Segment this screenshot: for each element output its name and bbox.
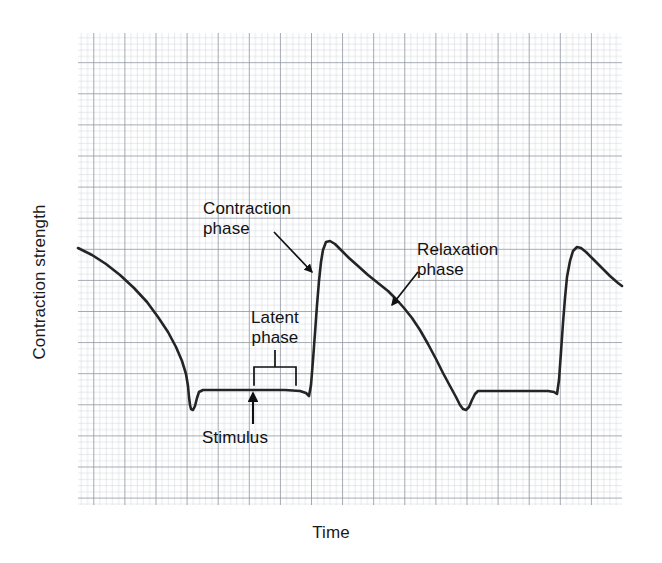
- annotation-latent-phase: Latent phase: [238, 308, 312, 348]
- y-axis-label: Contraction strength: [30, 172, 50, 392]
- annotation-contraction-phase: Contraction phase: [203, 199, 291, 239]
- annotation-stimulus: Stimulus: [202, 428, 268, 448]
- grid-area: [78, 33, 622, 505]
- annotation-relaxation-phase: Relaxation phase: [417, 240, 498, 280]
- x-axis-label: Time: [0, 523, 662, 543]
- graph-paper: [78, 33, 622, 505]
- myogram-figure: [0, 0, 662, 563]
